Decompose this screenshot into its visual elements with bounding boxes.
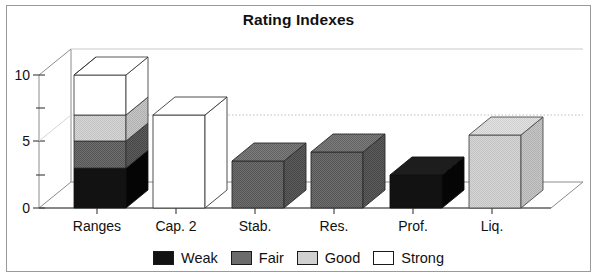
legend-swatch-strong xyxy=(373,251,394,265)
bar-ranges[interactable] xyxy=(74,57,148,208)
y-axis-label-5: 5 xyxy=(8,133,30,149)
legend-label-good: Good xyxy=(325,250,360,266)
bar-cap-2[interactable] xyxy=(153,97,227,208)
bar-liq[interactable] xyxy=(469,117,543,208)
y-axis-label-10: 10 xyxy=(2,67,30,83)
legend-item-strong[interactable]: Strong xyxy=(373,250,444,266)
chart-screenshot: Rating Indexes xyxy=(0,0,597,278)
chart-legend: Weak Fair Good Strong xyxy=(0,250,597,266)
legend-label-strong: Strong xyxy=(401,250,444,266)
legend-label-fair: Fair xyxy=(259,250,284,266)
bar-stab[interactable] xyxy=(232,143,306,208)
x-axis-label-stab: Stab. xyxy=(239,218,272,234)
x-axis-label-prof: Prof. xyxy=(398,218,428,234)
legend-item-weak[interactable]: Weak xyxy=(153,250,218,266)
legend-swatch-good xyxy=(297,251,318,265)
x-axis-label-ranges: Ranges xyxy=(73,218,121,234)
x-axis-label-cap-2: Cap. 2 xyxy=(155,218,196,234)
legend-label-weak: Weak xyxy=(181,250,218,266)
category-ticks xyxy=(97,208,492,214)
bar-res[interactable] xyxy=(311,134,385,208)
chart-plot-area xyxy=(0,0,597,278)
x-axis-label-res: Res. xyxy=(320,218,349,234)
legend-item-fair[interactable]: Fair xyxy=(231,250,284,266)
legend-swatch-fair xyxy=(231,251,252,265)
legend-item-good[interactable]: Good xyxy=(297,250,360,266)
y-axis-label-0: 0 xyxy=(8,200,30,216)
legend-swatch-weak xyxy=(153,251,174,265)
x-axis-label-liq: Liq. xyxy=(481,218,504,234)
